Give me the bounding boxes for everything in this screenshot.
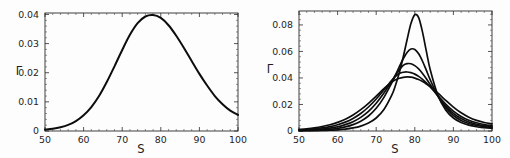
data-curve-broad-peak	[45, 15, 238, 130]
y-tick-label: 0.03	[18, 38, 39, 49]
y-tick-label: 0.04	[272, 72, 293, 83]
plot-frame-left	[45, 13, 238, 131]
figure-container: 506070809010000.010.020.030.04 S Γ 50607…	[0, 0, 510, 158]
x-tick-label: 100	[483, 134, 501, 145]
data-curves-left	[45, 15, 238, 130]
x-tick-label: 80	[409, 134, 421, 145]
chart-svg-right: 506070809010000.020.040.060.08 S Γ	[255, 0, 510, 158]
data-curves-right	[299, 14, 492, 130]
x-tick-label: 60	[78, 134, 90, 145]
chart-svg-left: 506070809010000.010.020.030.04 S Γ	[0, 0, 255, 158]
plot-frame-right	[299, 11, 492, 131]
x-axis-label-right: S	[391, 142, 398, 156]
y-tick-label: 0	[33, 125, 39, 136]
x-tick-label: 90	[193, 134, 205, 145]
x-tick-label: 100	[229, 134, 247, 145]
y-tick-label: 0.04	[18, 9, 39, 20]
x-tick-label: 60	[332, 134, 344, 145]
x-tick-label: 90	[447, 134, 459, 145]
y-tick-label: 0.08	[272, 19, 293, 30]
x-tick-label: 50	[39, 134, 51, 145]
x-axis-label-left: S	[137, 142, 144, 156]
y-tick-label: 0.01	[18, 96, 39, 107]
y-tick-label: 0.02	[272, 99, 293, 110]
x-tick-label: 70	[116, 134, 128, 145]
y-tick-label: 0	[287, 125, 293, 136]
axis-ticks-left	[45, 13, 238, 131]
x-tick-label: 50	[293, 134, 305, 145]
y-tick-label: 0.06	[272, 46, 293, 57]
chart-panel-left: 506070809010000.010.020.030.04 S Γ	[0, 0, 255, 158]
y-axis-label-left: Γ	[16, 64, 23, 78]
x-tick-label: 70	[370, 134, 382, 145]
x-tick-label: 80	[155, 134, 167, 145]
chart-panel-right: 506070809010000.020.040.060.08 S Γ	[255, 0, 510, 158]
axis-ticks-right	[299, 11, 492, 131]
axis-tick-labels-right: 506070809010000.020.040.060.08	[272, 19, 501, 145]
y-axis-label-right: Γ	[267, 62, 274, 76]
